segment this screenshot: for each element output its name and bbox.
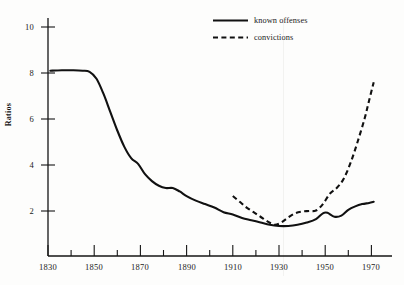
legend-swatches [213,21,248,38]
series-line-convictions [233,82,374,225]
legend-label-known-offenses: known offenses [254,16,308,25]
x-axis-ticks-minor [71,250,348,256]
series-line-known-offenses [50,70,373,226]
y-axis-title: Ratios [4,95,13,135]
y-tick-label-2: 2 [16,206,34,216]
x-tick-label-1930: 1930 [264,262,294,272]
y-tick-label-10: 10 [16,22,34,32]
axis-lines [48,18,392,256]
x-tick-label-1950: 1950 [310,262,340,272]
x-tick-label-1970: 1970 [356,262,386,272]
y-tick-label-8: 8 [16,68,34,78]
x-tick-label-1890: 1890 [172,262,202,272]
legend-label-convictions: convictions [254,33,293,42]
y-tick-label-4: 4 [16,160,34,170]
chart-figure: Ratios 10 8 6 4 2 1830 1850 1870 1890 19… [0,0,404,285]
data-series-group [50,70,373,226]
x-tick-label-1850: 1850 [79,262,109,272]
chart-plot-area [0,0,404,285]
x-tick-label-1830: 1830 [33,262,63,272]
y-tick-label-6: 6 [16,114,34,124]
x-tick-label-1910: 1910 [218,262,248,272]
x-tick-label-1870: 1870 [125,262,155,272]
